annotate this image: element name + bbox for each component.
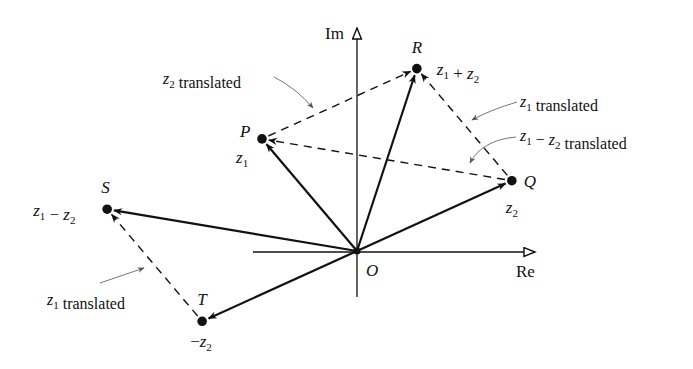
annotation-z2-translated-pointer (274, 77, 313, 108)
real-axis-label: Re (516, 262, 535, 281)
annotation-z1-translated-upper: z1 translated (519, 93, 598, 114)
point-r (412, 64, 422, 74)
point-q-label: Q (524, 172, 536, 191)
annotation-z1-translated-lower: z1 translated (46, 291, 125, 312)
imaginary-axis-label: Im (325, 24, 344, 43)
vector-z2 (357, 184, 505, 251)
vector-z1-minus-z2-translated (269, 140, 505, 179)
annotations: z2 translatedz1 translatedz1 − z2 transl… (46, 70, 627, 312)
point-p (257, 134, 267, 144)
annotation-z2-translated: z2 translated (162, 70, 241, 91)
vector-z2-translated (268, 71, 410, 136)
annotation-z1-translated-upper-pointer (472, 102, 517, 120)
complex-plane-diagram: Re Im O Pz1Qz2Rz1 + z2Sz1 − z2T−z2 z2 tr… (0, 0, 693, 369)
point-o (354, 248, 361, 255)
point-s (102, 204, 112, 214)
annotation-z1-minus-z2-translated: z1 − z2 translated (519, 127, 627, 152)
vectors (112, 71, 508, 318)
vector-z1 (267, 144, 357, 251)
origin-label: O (366, 261, 378, 280)
point-q (507, 176, 517, 186)
point-p-label: P (239, 122, 250, 141)
point-s-value-label: z1 − z2 (32, 201, 75, 226)
point-t-label: T (197, 290, 208, 309)
point-t (197, 317, 207, 327)
point-p-value-label: z1 (235, 148, 248, 169)
point-r-label: R (411, 38, 423, 57)
vector-minus-z2 (209, 251, 357, 318)
vector-z1-translated-upper (421, 74, 507, 175)
vector-z1-minus-z2 (114, 210, 357, 251)
point-r-value-label: z1 + z2 (436, 60, 479, 85)
point-q-value-label: z2 (505, 198, 518, 219)
point-s-label: S (101, 178, 110, 197)
annotation-z1-translated-lower-pointer (100, 268, 144, 283)
point-t-value-label: −z2 (190, 332, 212, 353)
